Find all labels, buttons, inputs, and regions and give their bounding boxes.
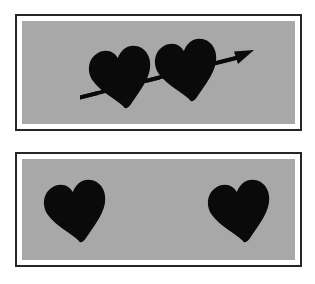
arrow-shaft-visible-right bbox=[214, 56, 238, 66]
heart-left bbox=[41, 178, 111, 247]
panel-plate bbox=[22, 159, 295, 260]
heart-right bbox=[205, 178, 275, 247]
panel-plate bbox=[22, 21, 295, 124]
figure-root bbox=[0, 0, 315, 284]
heart-right bbox=[152, 37, 222, 106]
arrow-shaft-visible-left bbox=[80, 91, 98, 100]
pierced-hearts-panel bbox=[15, 14, 302, 131]
arrow-shaft-visible-mid bbox=[146, 75, 160, 83]
separated-hearts-artwork bbox=[22, 159, 295, 260]
heart-left bbox=[86, 44, 156, 113]
separated-hearts-panel bbox=[15, 152, 302, 267]
pierced-hearts-artwork bbox=[22, 21, 295, 124]
